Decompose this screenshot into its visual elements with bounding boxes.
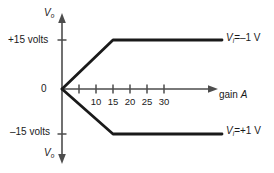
series-bottom-label-subscript: i xyxy=(233,130,234,137)
series-top-label-value: =–1 V xyxy=(234,32,260,43)
origin-label: 0 xyxy=(41,84,47,94)
series-bottom-label-v: V xyxy=(226,125,233,136)
x-axis-label-symbol: A xyxy=(241,89,248,100)
y-axis-up-arrow-icon xyxy=(58,13,66,23)
y-axis-top-label-text: V xyxy=(44,7,51,18)
series-label-negative-input: Vi=–1 V xyxy=(226,33,261,43)
series-top-label-subscript: i xyxy=(233,37,234,44)
series-top-label-v: V xyxy=(226,32,233,43)
y-axis-bottom-label-subscript: o xyxy=(51,152,55,159)
series-bottom-label-value: =+1 V xyxy=(234,125,261,136)
x-tick-label-30: 30 xyxy=(154,97,174,107)
x-axis-label: gain A xyxy=(219,90,247,100)
y-axis-bottom-label: Vo xyxy=(44,148,54,158)
y-axis-negative-tick-label: –15 volts xyxy=(10,127,50,137)
x-axis-right-arrow-icon xyxy=(208,85,218,93)
y-axis-bottom-label-text: V xyxy=(44,147,51,158)
series-line-negative-input xyxy=(62,40,222,89)
series-label-positive-input: Vi=+1 V xyxy=(226,126,261,136)
x-axis-label-prefix: gain xyxy=(219,89,241,100)
y-axis-top-label: Vo xyxy=(44,8,54,18)
y-axis-top-label-subscript: o xyxy=(51,12,55,19)
y-axis-down-arrow-icon xyxy=(58,154,66,164)
op-amp-saturation-chart: Vo Vo +15 volts –15 volts 0 10 15 20 25 … xyxy=(0,0,274,173)
y-axis-positive-tick-label: +15 volts xyxy=(8,35,48,45)
